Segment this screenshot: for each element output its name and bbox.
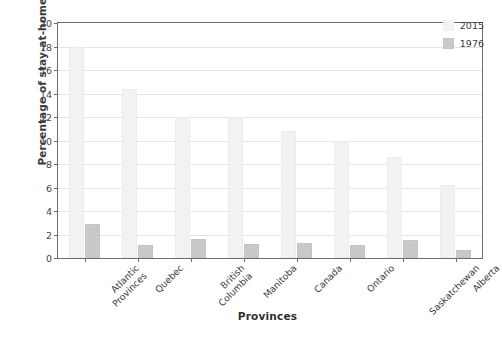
bar-group: [217, 23, 270, 258]
y-tick-label: 2: [46, 229, 52, 240]
legend-entry-1976[interactable]: 1976: [443, 38, 484, 49]
plot-area: 02468101214161820: [57, 22, 483, 259]
y-tick-label: 0: [46, 253, 52, 264]
bar-1976[interactable]: [85, 224, 100, 258]
x-tick-mark: [297, 258, 298, 262]
x-tick-label: Atlantic Provinces: [102, 263, 148, 309]
bar-1976[interactable]: [350, 245, 365, 258]
bar-2015[interactable]: [334, 141, 349, 259]
x-axis-title: Provinces: [55, 310, 480, 322]
y-tick-label: 16: [40, 65, 52, 76]
legend-label-2015: 2015: [460, 20, 484, 31]
y-tick-label: 8: [46, 159, 52, 170]
bar-group: [376, 23, 429, 258]
bar-group: [111, 23, 164, 258]
y-tick-label: 14: [40, 88, 52, 99]
x-tick-label: Canada: [312, 263, 344, 295]
bar-1976[interactable]: [297, 243, 312, 258]
x-tick-mark: [191, 258, 192, 262]
y-tick-label: 18: [40, 41, 52, 52]
x-tick-label: Ontario: [365, 263, 397, 295]
y-tick-label: 4: [46, 206, 52, 217]
bar-1976[interactable]: [244, 244, 259, 258]
y-tick-label: 10: [40, 135, 52, 146]
x-tick-mark: [456, 258, 457, 262]
bar-1976[interactable]: [456, 250, 471, 258]
bar-1976[interactable]: [138, 245, 153, 258]
bar-2015[interactable]: [175, 117, 190, 258]
bar-2015[interactable]: [387, 157, 402, 258]
y-tick-label: 12: [40, 112, 52, 123]
legend-swatch-2015: [443, 20, 454, 31]
legend-swatch-1976: [443, 38, 454, 49]
legend-label-1976: 1976: [460, 38, 484, 49]
bar-1976[interactable]: [403, 240, 418, 258]
bar-group: [323, 23, 376, 258]
bar-1976[interactable]: [191, 239, 206, 258]
x-tick-mark: [85, 258, 86, 262]
bar-2015[interactable]: [281, 131, 296, 258]
bar-group: [270, 23, 323, 258]
x-tick-mark: [244, 258, 245, 262]
bar-group: [429, 23, 482, 258]
y-tick-label: 6: [46, 182, 52, 193]
x-tick-label: Quebec: [153, 263, 186, 296]
bar-2015[interactable]: [122, 89, 137, 258]
y-tick-label: 20: [40, 18, 52, 29]
x-tick-mark: [138, 258, 139, 262]
chart-legend: 2015 1976: [443, 20, 484, 49]
x-tick-mark: [403, 258, 404, 262]
y-tick-mark: [54, 258, 58, 259]
bar-2015[interactable]: [440, 185, 455, 258]
bar-2015[interactable]: [69, 47, 84, 259]
bar-group: [58, 23, 111, 258]
x-tick-label: Manitoba: [261, 263, 299, 301]
x-tick-label: British Columbia: [208, 263, 254, 309]
bar-2015[interactable]: [228, 117, 243, 258]
x-tick-mark: [350, 258, 351, 262]
bar-group: [164, 23, 217, 258]
legend-entry-2015[interactable]: 2015: [443, 20, 484, 31]
